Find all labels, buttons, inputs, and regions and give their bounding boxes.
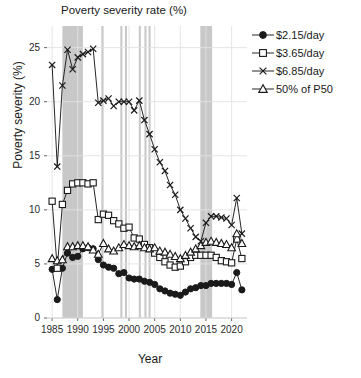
shaded-band — [139, 26, 141, 318]
y-tick: 5 — [16, 258, 40, 269]
y-tick: 15 — [16, 150, 40, 161]
legend-item[interactable]: $6.85/day — [250, 62, 358, 80]
legend-marker-icon — [250, 82, 276, 96]
legend-marker-icon — [250, 28, 276, 42]
legend-label: 50% of P50 — [276, 83, 333, 95]
legend-label: $2.15/day — [276, 29, 324, 41]
y-tick: 0 — [16, 312, 40, 323]
legend-item[interactable]: $2.15/day — [250, 26, 358, 44]
shaded-band — [149, 26, 151, 318]
legend-marker-icon — [250, 46, 276, 60]
legend-marker-icon — [250, 64, 276, 78]
legend-item[interactable]: $3.65/day — [250, 44, 358, 62]
legend-item[interactable]: 50% of P50 — [250, 80, 358, 98]
x-tick: 2020 — [212, 324, 252, 335]
y-tick: 10 — [16, 204, 40, 215]
legend-label: $6.85/day — [276, 65, 324, 77]
legend-label: $3.65/day — [276, 47, 324, 59]
y-tick: 25 — [16, 42, 40, 53]
chart-figure: Poverty severity rate (%) Poverty severi… — [0, 0, 361, 378]
y-tick: 20 — [16, 96, 40, 107]
chart-legend: $2.15/day$3.65/day$6.85/day50% of P50 — [250, 26, 358, 98]
shaded-band — [144, 26, 146, 318]
